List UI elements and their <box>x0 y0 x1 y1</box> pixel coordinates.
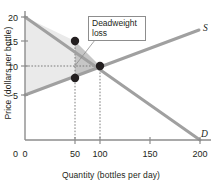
x-tick-label-50: 50 <box>70 149 80 159</box>
demand-curve-label: D <box>200 129 208 139</box>
equilibrium-marker <box>96 62 104 70</box>
y-tick-label-0: 0 <box>13 149 18 159</box>
supply-curve-label: S <box>203 23 208 33</box>
y-tick-label-5: 5 <box>13 91 18 101</box>
x-tick-label-100: 100 <box>92 149 107 159</box>
deadweight-loss-callout: Deadweight loss <box>88 16 146 41</box>
x-tick-label-0: 0 <box>22 149 27 159</box>
x-tick-label-200: 200 <box>192 149 207 159</box>
total-surplus-region <box>25 17 75 95</box>
x-tick-label-150: 150 <box>142 149 157 159</box>
x-axis-title: Quantity (bottles per day) <box>62 170 160 180</box>
supply-demand-deadweight-loss-figure: 20 15 10 5 0 0 50 100 150 200 S D Deadwe… <box>0 0 212 191</box>
demand-price-marker <box>71 37 79 45</box>
supply-price-marker <box>71 74 79 82</box>
y-axis-title: Price (dollars per bottle) <box>3 13 13 133</box>
